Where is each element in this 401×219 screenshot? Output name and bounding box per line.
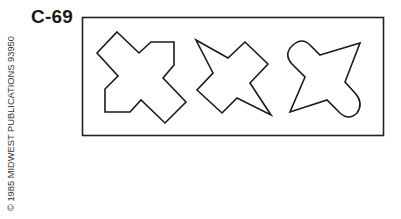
figure-panel (0, 0, 401, 219)
shape-2-star (196, 40, 271, 115)
shape-3-rounded (288, 41, 360, 117)
shape-1-cross (97, 32, 186, 123)
figure-frame (83, 18, 384, 136)
